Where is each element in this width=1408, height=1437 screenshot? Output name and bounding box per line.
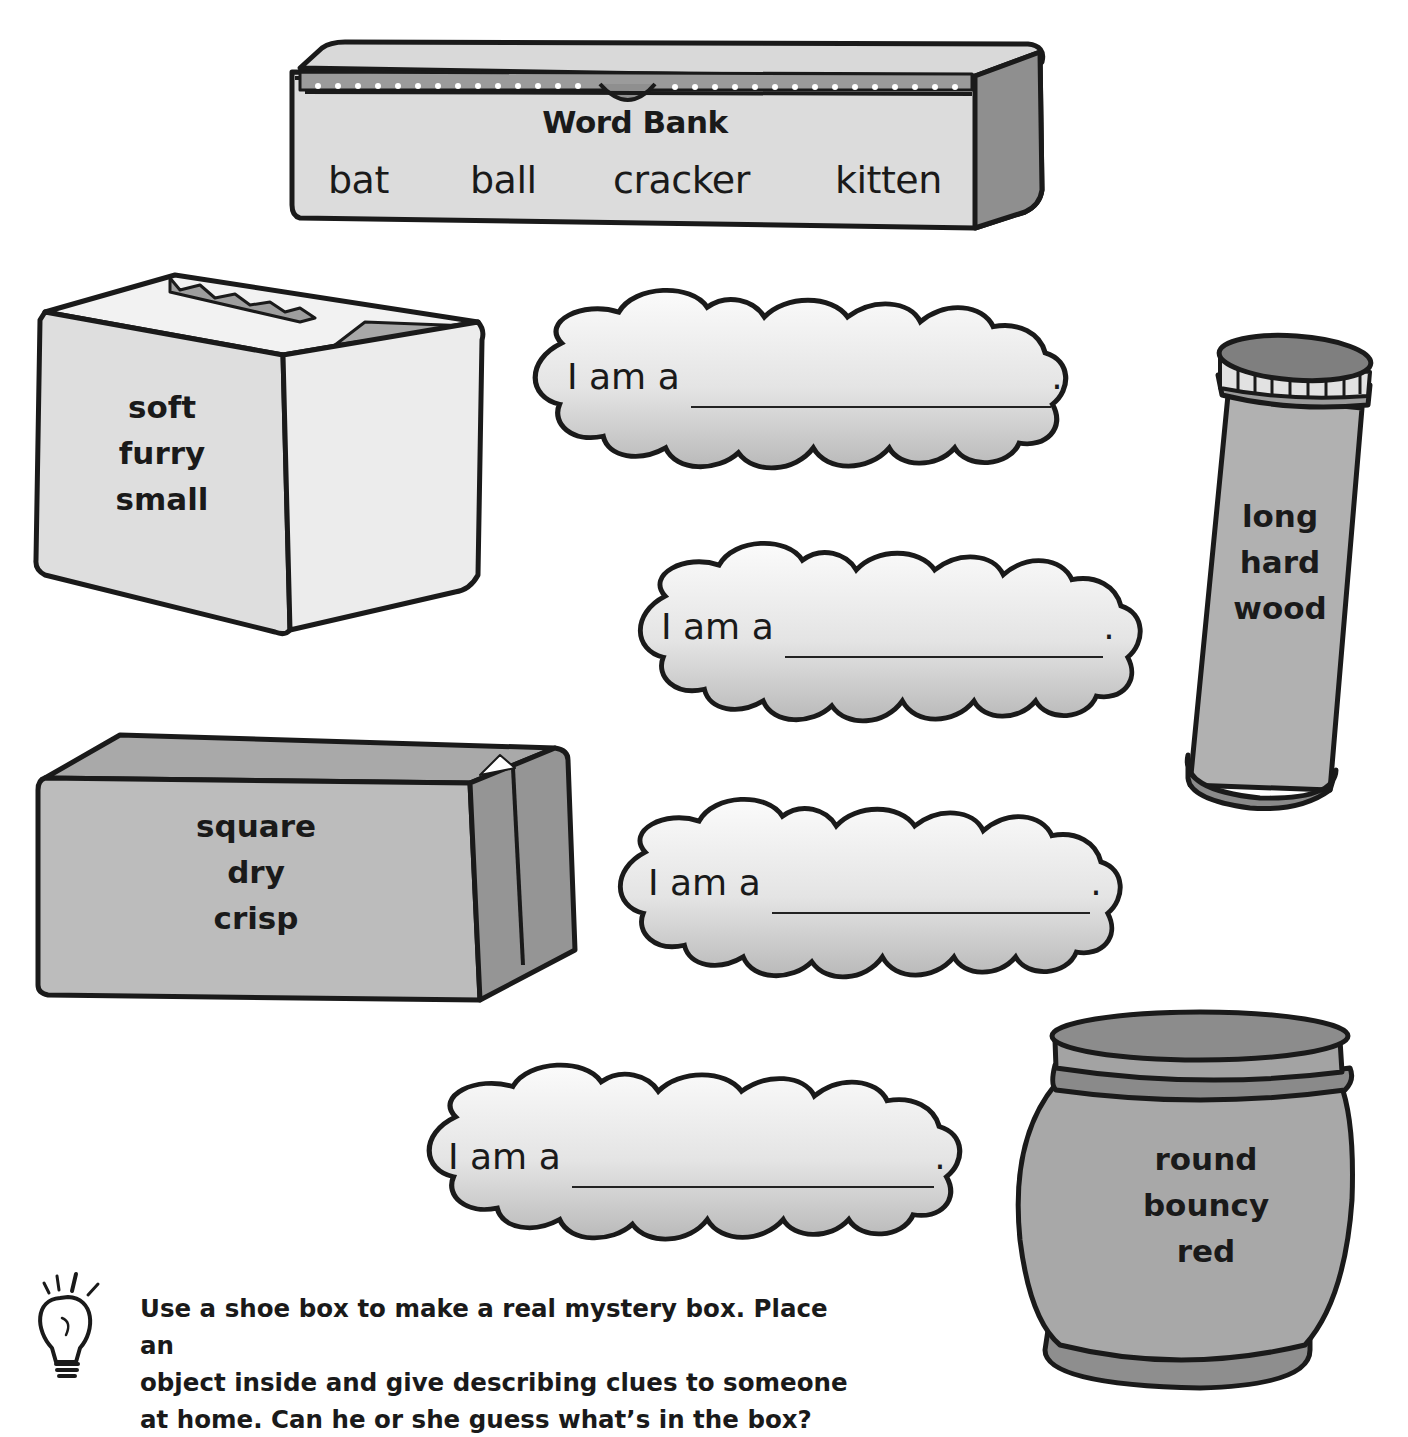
cloud-prompt: I am a xyxy=(448,1136,561,1177)
cloud-period: . xyxy=(1051,356,1062,397)
word-bank-title: Word Bank xyxy=(490,104,780,140)
answer-blank[interactable] xyxy=(691,364,1051,408)
cloud-period: . xyxy=(1090,862,1101,903)
clues-closed-box: square dry crisp xyxy=(176,803,336,941)
clue-word: crisp xyxy=(176,895,336,941)
cloud-period: . xyxy=(1103,606,1114,647)
clue-word: small xyxy=(82,476,242,522)
clues-open-box: soft furry small xyxy=(82,384,242,522)
clue-word: square xyxy=(176,803,336,849)
answer-input-4[interactable] xyxy=(572,1146,934,1186)
clue-word: bouncy xyxy=(1126,1182,1286,1228)
word-bank-word: cracker xyxy=(613,158,750,202)
clue-word: round xyxy=(1126,1136,1286,1182)
clue-word: soft xyxy=(82,384,242,430)
answer-blank[interactable] xyxy=(572,1144,934,1188)
word-bank-word: ball xyxy=(470,158,537,202)
word-bank-word: bat xyxy=(328,158,389,202)
answer-cloud-1: I am a . xyxy=(567,356,1063,400)
answer-cloud-2: I am a . xyxy=(661,606,1115,650)
answer-cloud-3: I am a . xyxy=(648,862,1102,906)
answer-input-2[interactable] xyxy=(785,616,1103,656)
clue-word: furry xyxy=(82,430,242,476)
clue-word: hard xyxy=(1200,539,1360,585)
home-activity-tip: Use a shoe box to make a real mystery bo… xyxy=(140,1290,860,1437)
tip-line: Use a shoe box to make a real mystery bo… xyxy=(140,1290,860,1364)
answer-blank[interactable] xyxy=(785,614,1103,658)
answer-cloud-4: I am a . xyxy=(448,1136,946,1180)
cloud-prompt: I am a xyxy=(648,862,761,903)
tip-line: at home. Can he or she guess what’s in t… xyxy=(140,1401,860,1437)
answer-input-1[interactable] xyxy=(691,366,1051,406)
word-bank-word: kitten xyxy=(835,158,942,202)
clue-word: long xyxy=(1200,493,1360,539)
answer-blank[interactable] xyxy=(772,870,1090,914)
clue-word: wood xyxy=(1200,585,1360,631)
cloud-prompt: I am a xyxy=(661,606,774,647)
clues-canister: round bouncy red xyxy=(1126,1136,1286,1274)
cloud-period: . xyxy=(934,1136,945,1177)
clues-tube: long hard wood xyxy=(1200,493,1360,631)
clue-word: dry xyxy=(176,849,336,895)
answer-input-3[interactable] xyxy=(772,872,1090,912)
cloud-prompt: I am a xyxy=(567,356,680,397)
lightbulb-icon xyxy=(40,1274,98,1376)
tip-line: object inside and give describing clues … xyxy=(140,1364,860,1401)
clue-word: red xyxy=(1126,1228,1286,1274)
